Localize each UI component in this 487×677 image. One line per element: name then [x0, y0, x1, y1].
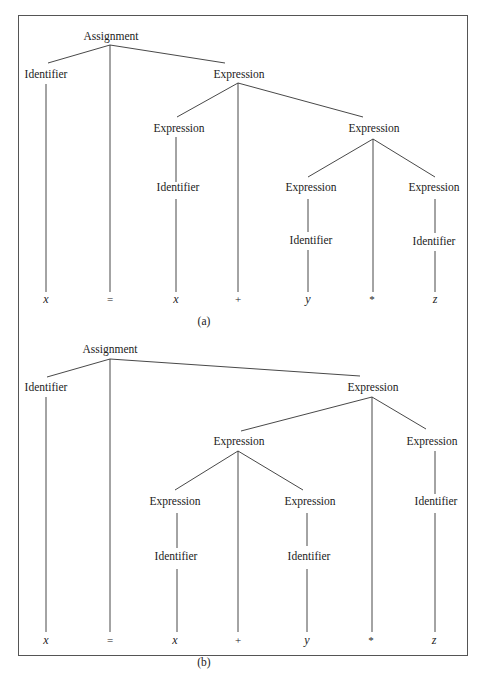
node-expression: Expression [153, 123, 204, 135]
leaf-equals: = [107, 294, 113, 305]
node-expression: Expression [347, 382, 398, 394]
leaf-star: * [368, 635, 374, 646]
caption-a: (a) [198, 316, 211, 328]
node-identifier: Identifier [290, 235, 333, 247]
tree-b-edges [46, 359, 435, 632]
leaf-plus: + [235, 294, 241, 305]
node-expression: Expression [408, 182, 459, 194]
leaf-y: y [304, 634, 309, 646]
node-expression: Expression [285, 182, 336, 194]
leaf-equals: = [107, 635, 113, 646]
node-identifier: Identifier [157, 182, 200, 194]
node-assignment: Assignment [83, 344, 138, 356]
node-identifier: Identifier [155, 551, 198, 563]
node-expression: Expression [213, 436, 264, 448]
node-expression: Expression [284, 496, 335, 508]
leaf-star: * [369, 294, 375, 305]
leaf-z: z [433, 293, 438, 305]
leaf-y: y [305, 293, 310, 305]
node-identifier: Identifier [413, 236, 456, 248]
node-assignment: Assignment [84, 31, 139, 43]
leaf-plus: + [235, 635, 241, 646]
node-identifier: Identifier [288, 551, 331, 563]
tree-a-edges [46, 45, 435, 292]
node-expression: Expression [213, 69, 264, 81]
leaf-x: x [43, 634, 48, 646]
leaf-z: z [432, 634, 437, 646]
leaf-x: x [173, 293, 178, 305]
leaf-x: x [43, 293, 48, 305]
node-expression: Expression [406, 436, 457, 448]
node-identifier: Identifier [415, 496, 458, 508]
caption-b: (b) [197, 657, 210, 669]
leaf-x: x [172, 634, 177, 646]
node-identifier: Identifier [25, 382, 68, 394]
node-expression: Expression [348, 123, 399, 135]
tree-edges [0, 0, 487, 677]
node-identifier: Identifier [25, 69, 68, 81]
node-expression: Expression [149, 496, 200, 508]
